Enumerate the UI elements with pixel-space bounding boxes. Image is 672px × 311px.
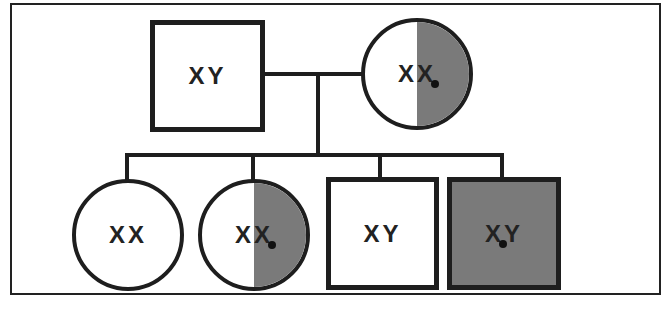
- mother-symbol-carrier: X X: [361, 18, 473, 130]
- daughter-1-genotype: X X: [109, 221, 147, 249]
- allele-x: X: [398, 60, 417, 88]
- drop-line-daughter-1: [125, 153, 129, 181]
- son-2-genotype: X Y: [485, 220, 523, 248]
- father-symbol: X Y: [150, 20, 265, 132]
- father-genotype: X Y: [188, 62, 226, 90]
- allele-y: Y: [208, 62, 227, 90]
- allele-y: Y: [383, 220, 402, 248]
- allele-x: X: [128, 221, 147, 249]
- mutation-dot-icon: [268, 241, 276, 249]
- daughter-2-symbol-carrier: X X: [198, 179, 310, 291]
- drop-line-daughter-2: [251, 153, 255, 181]
- daughter-2-genotype: X X: [235, 221, 273, 249]
- mating-line: [262, 72, 366, 76]
- allele-x: X: [188, 62, 207, 90]
- allele-x: X: [363, 220, 382, 248]
- daughter-1-symbol: X X: [72, 179, 184, 291]
- mother-genotype: X X: [398, 60, 436, 88]
- allele-x-mutant: X: [254, 221, 273, 249]
- son-2-symbol-affected: X Y: [447, 177, 561, 290]
- allele-x-mutant: X: [417, 60, 436, 88]
- allele-x-mutant: X: [485, 220, 504, 248]
- descent-line: [316, 72, 320, 156]
- allele-x: X: [235, 221, 254, 249]
- allele-x: X: [109, 221, 128, 249]
- mutation-dot-icon: [431, 80, 439, 88]
- son-1-genotype: X Y: [363, 220, 401, 248]
- son-1-symbol: X Y: [326, 177, 439, 290]
- allele-y: Y: [504, 220, 523, 248]
- drop-line-son-2: [500, 153, 504, 179]
- drop-line-son-1: [378, 153, 382, 179]
- sibship-line: [125, 153, 504, 157]
